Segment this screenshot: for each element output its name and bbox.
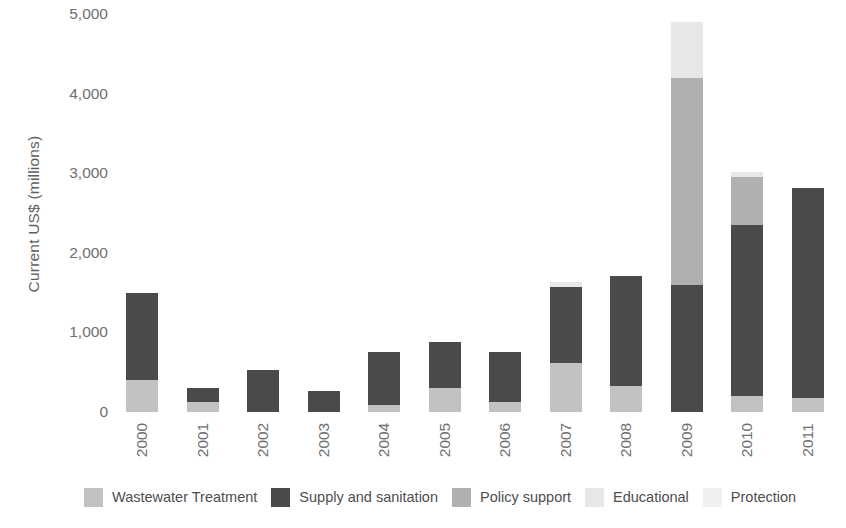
legend-item[interactable]: Educational [585, 488, 689, 507]
bar-segment[interactable] [187, 388, 219, 402]
x-axis-tick-cell: 2001 [177, 414, 229, 472]
y-axis-tick-label: 2,000 [8, 244, 108, 262]
bar-column[interactable] [479, 14, 531, 412]
legend-swatch-icon [271, 488, 290, 507]
x-axis-tick-cell: 2010 [721, 414, 773, 472]
x-axis-tick-label: 2011 [799, 423, 817, 456]
x-axis-tick-label: 2003 [315, 423, 333, 457]
legend-item[interactable]: Policy support [452, 488, 571, 507]
x-axis-tick-cell: 2004 [358, 414, 410, 472]
bar-segment[interactable] [489, 402, 521, 412]
x-axis-tick-cell: 2000 [116, 414, 168, 472]
bar-column[interactable] [177, 14, 229, 412]
bar-segment[interactable] [429, 388, 461, 412]
y-axis-tick-label: 1,000 [8, 323, 108, 341]
bar-column[interactable] [116, 14, 168, 412]
bar-column[interactable] [600, 14, 652, 412]
bar-segment[interactable] [792, 398, 824, 412]
bar-segment[interactable] [187, 402, 219, 412]
bar-segment[interactable] [610, 276, 642, 386]
legend-label: Wastewater Treatment [112, 489, 257, 505]
legend-swatch-icon [703, 488, 722, 507]
stacked-bar[interactable] [187, 388, 219, 412]
stacked-bar[interactable] [247, 370, 279, 412]
stacked-bar[interactable] [368, 352, 400, 412]
x-axis-tick-cell: 2007 [540, 414, 592, 472]
x-axis-tick-label: 2000 [133, 423, 151, 457]
legend-swatch-icon [585, 488, 604, 507]
stacked-bar[interactable] [550, 282, 582, 412]
x-axis-tick-label: 2004 [375, 423, 393, 457]
bar-segment[interactable] [550, 287, 582, 363]
stacked-bar[interactable] [792, 188, 824, 412]
legend-swatch-icon [84, 488, 103, 507]
bar-segment[interactable] [489, 352, 521, 401]
x-axis-tick-cell: 2011 [782, 414, 834, 472]
stacked-bar[interactable] [731, 172, 763, 412]
legend-label: Protection [731, 489, 796, 505]
stacked-bar[interactable] [671, 22, 703, 412]
bar-segment[interactable] [731, 225, 763, 396]
x-axis-tick-label: 2010 [738, 423, 756, 457]
bar-segment[interactable] [731, 177, 763, 225]
bar-column[interactable] [358, 14, 410, 412]
bar-segment[interactable] [550, 363, 582, 412]
legend-label: Educational [613, 489, 689, 505]
x-axis-tick-cell: 2005 [419, 414, 471, 472]
x-axis-tick-cell: 2008 [600, 414, 652, 472]
chart-legend: Wastewater TreatmentSupply and sanitatio… [84, 483, 844, 511]
legend-item[interactable]: Wastewater Treatment [84, 488, 257, 507]
stacked-bar[interactable] [489, 352, 521, 412]
bar-segment[interactable] [792, 188, 824, 398]
x-axis-tick-label: 2007 [557, 423, 575, 457]
bar-segment[interactable] [671, 78, 703, 285]
bar-segment[interactable] [126, 293, 158, 381]
x-axis-tick-labels: 2000200120022003200420052006200720082009… [112, 414, 838, 472]
y-axis-tick-labels: 5,0004,0003,0002,0001,0000 [0, 0, 108, 420]
y-axis-tick-label: 5,000 [8, 5, 108, 23]
legend-label: Policy support [480, 489, 571, 505]
bar-segment[interactable] [671, 22, 703, 78]
stacked-bar[interactable] [308, 391, 340, 412]
legend-label: Supply and sanitation [299, 489, 438, 505]
x-axis-tick-cell: 2006 [479, 414, 531, 472]
bar-column[interactable] [661, 14, 713, 412]
x-axis-tick-label: 2001 [194, 423, 212, 457]
stacked-bar[interactable] [126, 293, 158, 412]
y-axis-tick-label: 3,000 [8, 164, 108, 182]
bar-column[interactable] [237, 14, 289, 412]
bar-segment[interactable] [610, 386, 642, 412]
bar-segment[interactable] [671, 285, 703, 412]
bar-segment[interactable] [368, 352, 400, 405]
bar-column[interactable] [782, 14, 834, 412]
stacked-bar-chart: Current US$ (millions) 5,0004,0003,0002,… [0, 0, 846, 528]
bar-segment[interactable] [368, 405, 400, 412]
y-axis-tick-label: 4,000 [8, 85, 108, 103]
bar-segment[interactable] [308, 391, 340, 412]
legend-item[interactable]: Supply and sanitation [271, 488, 438, 507]
x-axis-tick-cell: 2009 [661, 414, 713, 472]
x-axis-tick-label: 2008 [617, 423, 635, 457]
x-axis-tick-cell: 2003 [298, 414, 350, 472]
bar-column[interactable] [721, 14, 773, 412]
y-axis-tick-label: 0 [8, 403, 108, 421]
bar-segment[interactable] [247, 370, 279, 412]
bar-segment[interactable] [731, 396, 763, 412]
bar-segment[interactable] [126, 380, 158, 412]
bar-column[interactable] [540, 14, 592, 412]
x-axis-tick-label: 2006 [496, 423, 514, 457]
plot-area [112, 8, 838, 412]
x-axis-tick-label: 2002 [254, 423, 272, 457]
x-axis-tick-label: 2009 [678, 423, 696, 457]
stacked-bar[interactable] [610, 276, 642, 412]
legend-item[interactable]: Protection [703, 488, 796, 507]
legend-swatch-icon [452, 488, 471, 507]
bar-column[interactable] [298, 14, 350, 412]
bar-column[interactable] [419, 14, 471, 412]
bar-segment[interactable] [429, 342, 461, 388]
stacked-bar[interactable] [429, 342, 461, 412]
x-axis-tick-cell: 2002 [237, 414, 289, 472]
x-axis-tick-label: 2005 [436, 423, 454, 457]
